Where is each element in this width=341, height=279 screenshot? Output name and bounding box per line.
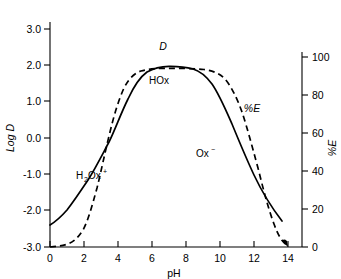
- right-tick-label-60: 60: [312, 127, 324, 139]
- x-tick-label-4: 4: [115, 252, 121, 264]
- right-axis-ticks: [302, 57, 308, 247]
- left-axis-tick-labels: 3.0 2.0 1.0 0.0 -1.0 -2.0 -3.0: [23, 23, 41, 253]
- x-axis-tick-labels: 0 2 4 6 8 10 12 14: [47, 252, 294, 264]
- chart-figure: 3.0 2.0 1.0 0.0 -1.0 -2.0 -3.0 0 2 4 6 8…: [0, 0, 341, 279]
- annotation-percent-E: %E: [244, 102, 261, 114]
- x-tick-label-6: 6: [149, 252, 155, 264]
- left-tick-label--2.0: -2.0: [23, 204, 41, 216]
- annotation-D: D: [159, 40, 167, 52]
- left-tick-label--3.0: -3.0: [23, 241, 41, 253]
- x-axis-title: pH: [167, 267, 180, 279]
- left-tick-label--1.0: -1.0: [23, 168, 41, 180]
- y-axis-title-left: Log D: [4, 124, 16, 152]
- annotation-Ox-base: Ox: [196, 148, 209, 159]
- curve-percentE: [50, 68, 287, 247]
- curve-endpoint-arrow: [281, 240, 288, 248]
- curve-D: [50, 66, 282, 225]
- left-tick-label-3.0: 3.0: [26, 23, 41, 35]
- x-tick-label-10: 10: [214, 252, 226, 264]
- annotation-HOx: HOx: [149, 75, 169, 86]
- right-tick-label-20: 20: [312, 203, 324, 215]
- x-tick-label-8: 8: [183, 252, 189, 264]
- left-axis-ticks: [44, 29, 50, 247]
- right-tick-label-0: 0: [312, 241, 318, 253]
- right-tick-label-80: 80: [312, 89, 324, 101]
- annotation-H2Ox-superscript: +: [103, 168, 107, 175]
- x-tick-label-2: 2: [81, 252, 87, 264]
- left-tick-label-2.0: 2.0: [26, 59, 41, 71]
- annotation-Ox-superscript: −: [211, 146, 215, 153]
- right-tick-label-40: 40: [312, 165, 324, 177]
- annotation-H2Ox-H: H: [76, 170, 83, 181]
- annotation-H2Ox-Ox: Ox: [88, 170, 101, 181]
- left-tick-label-0.0: 0.0: [26, 132, 41, 144]
- chart-svg: 3.0 2.0 1.0 0.0 -1.0 -2.0 -3.0 0 2 4 6 8…: [0, 0, 341, 279]
- left-tick-label-1.0: 1.0: [26, 95, 41, 107]
- annotation-Ox-minus: Ox −: [196, 146, 215, 159]
- right-tick-label-100: 100: [312, 51, 330, 63]
- x-tick-label-12: 12: [248, 252, 260, 264]
- y-axis-title-right: %E: [326, 139, 338, 156]
- x-tick-label-0: 0: [47, 252, 53, 264]
- x-tick-label-14: 14: [282, 252, 294, 264]
- axes-group: [50, 22, 302, 247]
- x-axis-ticks: [50, 241, 288, 247]
- annotation-H2Ox-plus: H 2 Ox +: [76, 168, 107, 183]
